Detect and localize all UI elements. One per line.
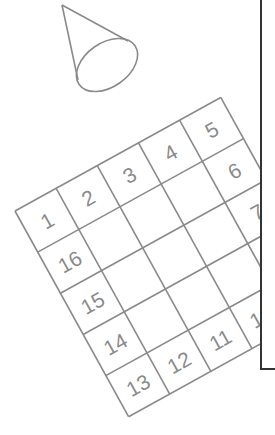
cone-right-edge <box>62 5 128 41</box>
cell-number-14: 14 <box>100 328 132 360</box>
grid-col-line <box>56 188 170 394</box>
cell-number-12: 12 <box>163 347 195 378</box>
grid-col-line <box>15 211 129 417</box>
cell-number-16: 16 <box>54 246 86 277</box>
grid-row-line <box>15 97 221 211</box>
cell-number-7: 7 <box>247 199 268 225</box>
cell-number-3: 3 <box>119 162 140 188</box>
cell-number-15: 15 <box>77 287 109 318</box>
cell-number-2: 2 <box>78 185 99 211</box>
grid-row-line <box>83 221 275 335</box>
grid-row-line <box>38 139 244 253</box>
cell-number-5: 5 <box>201 117 222 143</box>
cell-number-1: 1 <box>36 208 57 234</box>
diagram-canvas: 12345678910111213141516 <box>0 0 275 435</box>
cell-number-8: 8 <box>269 240 275 266</box>
numbered-grid: 12345678910111213141516 <box>15 97 275 416</box>
cell-number-6: 6 <box>224 158 245 184</box>
panel-frame <box>261 0 275 369</box>
cell-number-11: 11 <box>205 324 235 355</box>
cone-base-ellipse <box>67 27 148 102</box>
cell-number-13: 13 <box>122 370 154 401</box>
cell-number-4: 4 <box>160 139 182 165</box>
cone-left-edge <box>62 5 78 80</box>
cone-drawing <box>62 5 147 103</box>
